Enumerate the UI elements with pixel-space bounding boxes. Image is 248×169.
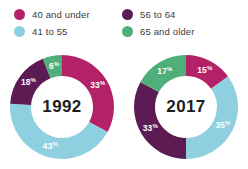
legend-item-65-and-older[interactable]: 65 and older bbox=[122, 23, 248, 40]
donut-svg-1992 bbox=[6, 51, 118, 163]
legend-label-56-to-64: 56 to 64 bbox=[140, 10, 176, 20]
legend-label-40-and-under: 40 and under bbox=[32, 10, 90, 20]
legend-swatch-56-to-64-icon bbox=[122, 9, 133, 20]
legend-swatch-41-to-55-icon bbox=[14, 26, 25, 37]
chart-page: 40 and under41 to 5556 to 6465 and older… bbox=[0, 0, 248, 169]
legend-column-2: 56 to 6465 and older bbox=[118, 6, 248, 46]
legend-item-56-to-64[interactable]: 56 to 64 bbox=[122, 6, 248, 23]
legend-item-40-and-under[interactable]: 40 and under bbox=[14, 6, 118, 23]
donut-charts-container: 33%43%18%6%199215%35%33%17%2017 bbox=[0, 44, 248, 169]
legend-label-41-to-55: 41 to 55 bbox=[32, 27, 68, 37]
donut-slice-1992-56-to-64[interactable] bbox=[10, 58, 50, 104]
legend-swatch-65-and-older-icon bbox=[122, 26, 133, 37]
donut-svg-2017 bbox=[130, 51, 242, 163]
donut-chart-1992: 33%43%18%6%1992 bbox=[0, 44, 124, 169]
donut-slice-2017-56-to-64[interactable] bbox=[134, 81, 186, 158]
legend-column-1: 40 and under41 to 55 bbox=[0, 6, 118, 46]
legend-item-41-to-55[interactable]: 41 to 55 bbox=[14, 23, 118, 40]
legend-swatch-40-and-under-icon bbox=[14, 9, 25, 20]
donut-slice-2017-41-to-55[interactable] bbox=[186, 76, 238, 159]
donut-slice-1992-40-and-under[interactable] bbox=[62, 55, 114, 132]
donut-chart-2017: 15%35%33%17%2017 bbox=[124, 44, 248, 169]
legend: 40 and under41 to 5556 to 6465 and older bbox=[0, 6, 248, 46]
legend-label-65-and-older: 65 and older bbox=[140, 27, 195, 37]
